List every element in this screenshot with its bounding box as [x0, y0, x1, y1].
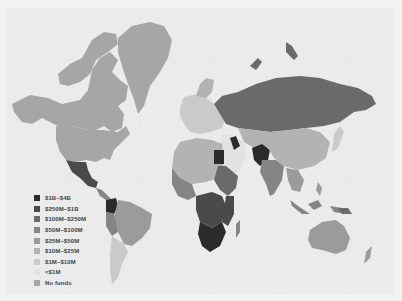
region-egypt — [214, 150, 224, 164]
legend-item: $100M–$250M — [34, 214, 86, 225]
legend-item: <$1M — [34, 267, 86, 278]
region-new-zealand — [364, 246, 372, 264]
legend-item: $1B–$4B — [34, 193, 86, 204]
region-se-asia — [286, 168, 304, 192]
region-india — [260, 160, 284, 196]
legend-label: $10M–$25M — [45, 248, 79, 254]
region-brazil — [114, 200, 152, 246]
legend-item: $1M–$10M — [34, 257, 86, 268]
legend-swatch — [34, 280, 40, 286]
region-central-america — [96, 188, 112, 200]
legend-item: No funds — [34, 278, 86, 289]
region-philippines — [316, 182, 322, 196]
legend-label: $100M–$250M — [45, 216, 86, 222]
legend-swatch — [34, 238, 40, 244]
region-greenland — [118, 22, 172, 114]
legend-item: $25M–$50M — [34, 235, 86, 246]
region-russia-islands — [250, 42, 298, 70]
region-australia — [308, 220, 350, 254]
legend-label: $250M–$1B — [45, 206, 79, 212]
legend-item: $10M–$25M — [34, 246, 86, 257]
region-scandinavia — [196, 78, 214, 98]
region-indonesia — [290, 200, 346, 214]
legend-label: $1B–$4B — [45, 195, 71, 201]
region-madagascar — [236, 220, 240, 238]
region-usa — [56, 126, 130, 162]
legend-swatch — [34, 269, 40, 275]
legend-item: $50M–$100M — [34, 225, 86, 236]
region-russia — [214, 76, 376, 132]
legend-label: $1M–$10M — [45, 259, 76, 265]
legend-item: $250M–$1B — [34, 204, 86, 215]
legend-swatch — [34, 227, 40, 233]
legend-swatch — [34, 248, 40, 254]
legend-label: $50M–$100M — [45, 227, 83, 233]
region-japan — [332, 126, 344, 152]
legend-swatch — [34, 206, 40, 212]
legend-label: No funds — [45, 280, 72, 286]
legend-label: $25M–$50M — [45, 238, 79, 244]
legend-label: <$1M — [45, 269, 61, 275]
legend-swatch — [34, 195, 40, 201]
legend: $1B–$4B $250M–$1B $100M–$250M $50M–$100M… — [34, 193, 86, 288]
legend-swatch — [34, 216, 40, 222]
region-mexico — [66, 160, 98, 188]
legend-swatch — [34, 259, 40, 265]
